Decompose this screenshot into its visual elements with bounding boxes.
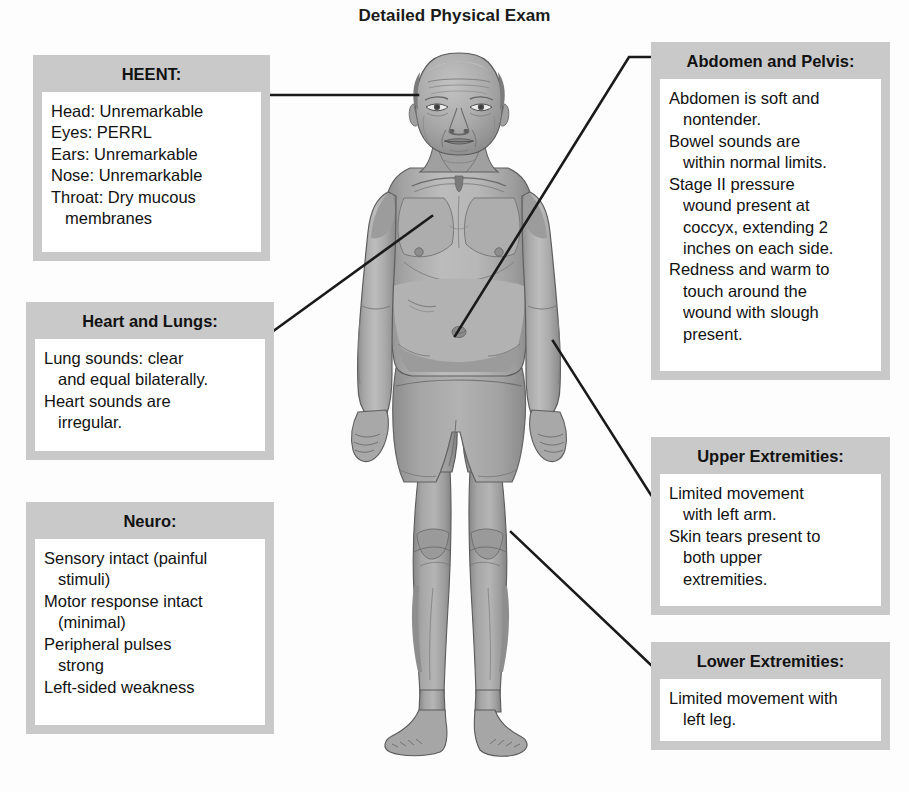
callout-line: left leg. <box>669 709 877 730</box>
callout-abdomen-and-pelvis-title: Abdomen and Pelvis: <box>660 49 881 79</box>
callout-line: membranes <box>51 208 257 229</box>
callout-line: coccyx, extending 2 <box>669 217 877 238</box>
callout-heart-and-lungs: Heart and Lungs: Lung sounds: clear and … <box>26 302 274 460</box>
callout-line: Eyes: PERRL <box>51 122 257 143</box>
callout-line: Ears: Unremarkable <box>51 144 257 165</box>
callout-line: Left-sided weakness <box>44 677 261 698</box>
callout-line: irregular. <box>44 412 261 433</box>
callout-heent-title: HEENT: <box>42 62 261 92</box>
callout-neuro-body: Sensory intact (painful stimuli) Motor r… <box>35 539 265 725</box>
callout-line: Limited movement <box>669 483 877 504</box>
callout-line: Throat: Dry mucous <box>51 187 257 208</box>
callout-line: Nose: Unremarkable <box>51 165 257 186</box>
callout-line: Redness and warm to <box>669 259 877 280</box>
callout-line: Bowel sounds are <box>669 131 877 152</box>
callout-line: inches on each side. <box>669 238 877 259</box>
callout-heent-body: Head: Unremarkable Eyes: PERRL Ears: Unr… <box>42 92 261 252</box>
callout-neuro-title: Neuro: <box>35 509 265 539</box>
callout-lower-extremities: Lower Extremities: Limited movement with… <box>651 642 890 750</box>
callout-line: Heart sounds are <box>44 391 261 412</box>
callout-abdomen-and-pelvis: Abdomen and Pelvis: Abdomen is soft and … <box>651 42 890 380</box>
callout-upper-extremities-title: Upper Extremities: <box>660 444 881 474</box>
callout-line: with left arm. <box>669 504 877 525</box>
callout-line: and equal bilaterally. <box>44 369 261 390</box>
callout-line: nontender. <box>669 109 877 130</box>
callout-heart-and-lungs-title: Heart and Lungs: <box>35 309 265 339</box>
callout-upper-extremities: Upper Extremities: Limited movement with… <box>651 437 890 615</box>
callout-line: (minimal) <box>44 612 261 633</box>
callout-line: wound with slough <box>669 302 877 323</box>
callout-line: Lung sounds: clear <box>44 348 261 369</box>
callout-heent: HEENT: Head: Unremarkable Eyes: PERRL Ea… <box>33 55 270 261</box>
callout-line: Limited movement with <box>669 688 877 709</box>
callout-lower-extremities-body: Limited movement with left leg. <box>660 679 881 741</box>
callout-neuro: Neuro: Sensory intact (painful stimuli) … <box>26 502 274 734</box>
callout-line: present. <box>669 324 877 345</box>
callout-upper-extremities-body: Limited movement with left arm. Skin tea… <box>660 474 881 606</box>
callout-line: Stage II pressure <box>669 174 877 195</box>
callout-line: Motor response intact <box>44 591 261 612</box>
callout-line: stimuli) <box>44 569 261 590</box>
exam-diagram-page: Detailed Physical Exam <box>0 0 909 792</box>
callout-line: Head: Unremarkable <box>51 101 257 122</box>
callout-line: Abdomen is soft and <box>669 88 877 109</box>
callout-heart-and-lungs-body: Lung sounds: clear and equal bilaterally… <box>35 339 265 451</box>
callout-abdomen-and-pelvis-body: Abdomen is soft and nontender. Bowel sou… <box>660 79 881 371</box>
callout-line: within normal limits. <box>669 152 877 173</box>
callout-line: strong <box>44 655 261 676</box>
callout-line: wound present at <box>669 195 877 216</box>
callout-line: Skin tears present to <box>669 526 877 547</box>
callout-line: Peripheral pulses <box>44 634 261 655</box>
callout-line: Sensory intact (painful <box>44 548 261 569</box>
callout-lower-extremities-title: Lower Extremities: <box>660 649 881 679</box>
callout-line: both upper <box>669 547 877 568</box>
callout-line: touch around the <box>669 281 877 302</box>
callout-line: extremities. <box>669 569 877 590</box>
